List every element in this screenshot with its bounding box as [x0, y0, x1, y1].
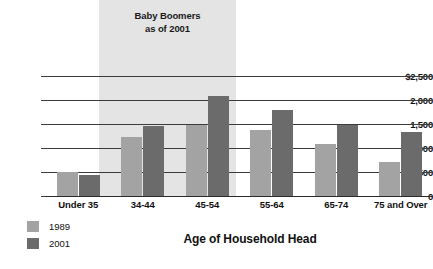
x-axis-label-55-64: 55-64 — [240, 199, 305, 210]
gridline — [46, 124, 433, 125]
bar-1989-55-64 — [250, 130, 271, 196]
legend-item-1989: 1989 — [27, 218, 70, 235]
legend-swatch-1989 — [27, 221, 39, 232]
bar-1989-under-35 — [57, 172, 78, 196]
legend: 19892001 — [27, 218, 70, 252]
gridline — [46, 148, 433, 149]
x-axis-label-75-and-over: 75 and Over — [369, 199, 433, 210]
bar-2001-75-and-over — [401, 132, 422, 196]
legend-swatch-2001 — [27, 238, 39, 249]
bar-2001-65-74 — [337, 125, 358, 196]
bar-chart: Baby Boomers as of 2001 05001,0001,5002,… — [0, 0, 433, 269]
plot-area — [46, 6, 433, 196]
x-axis-label-under-35: Under 35 — [46, 199, 111, 210]
x-axis-label-45-54: 45-54 — [175, 199, 240, 210]
bar-2001-under-35 — [79, 175, 100, 196]
bar-1989-65-74 — [315, 144, 336, 196]
gridline — [46, 172, 433, 173]
legend-label-1989: 1989 — [49, 221, 70, 232]
x-axis-title: Age of Household Head — [150, 232, 350, 246]
bar-2001-55-64 — [272, 110, 293, 196]
bar-1989-75-and-over — [379, 162, 400, 196]
legend-item-2001: 2001 — [27, 235, 70, 252]
gridline — [46, 100, 433, 101]
gridline — [46, 76, 433, 77]
bar-1989-34-44 — [121, 137, 142, 196]
bar-1989-45-54 — [186, 125, 207, 196]
legend-label-2001: 2001 — [49, 238, 70, 249]
bar-2001-45-54 — [208, 96, 229, 196]
x-axis-label-65-74: 65-74 — [304, 199, 369, 210]
x-axis-label-34-44: 34-44 — [111, 199, 176, 210]
bar-2001-34-44 — [143, 126, 164, 196]
x-axis-baseline — [46, 196, 433, 197]
